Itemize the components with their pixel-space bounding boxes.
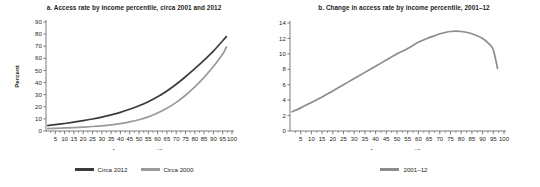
svg-text:4: 4 (282, 97, 286, 103)
svg-text:100: 100 (227, 136, 238, 142)
svg-text:20: 20 (80, 136, 87, 142)
panel-b-x-tick-labels: 5101520253035404550556065707580859095100 (299, 136, 510, 142)
svg-text:90: 90 (210, 136, 217, 142)
svg-text:45: 45 (126, 136, 133, 142)
panel-b: b. Change in access rate by income perce… (268, 0, 540, 187)
svg-text:30: 30 (98, 136, 105, 142)
panel-b-data-lines (292, 31, 497, 112)
panel-b-svg: 02468101214 5101520253035404550556065707… (268, 0, 540, 150)
panel-b-y-tick-labels: 02468101214 (279, 20, 286, 134)
svg-text:60: 60 (154, 136, 161, 142)
panel-a: a. Access rate by income percentile, cir… (0, 0, 268, 187)
svg-text:30: 30 (351, 136, 358, 142)
panel-b-axis-lines (290, 21, 506, 131)
svg-text:50: 50 (394, 136, 401, 142)
svg-text:55: 55 (404, 136, 411, 142)
svg-text:15: 15 (319, 136, 326, 142)
legend-label-circa-2000: Circa 2000 (164, 166, 194, 173)
svg-text:45: 45 (383, 136, 390, 142)
panel-a-legend: Circa 2012 Circa 2000 (0, 166, 268, 173)
svg-text:55: 55 (145, 136, 152, 142)
panel-a-x-tick-labels: 5101520253035404550556065707580859095100 (54, 136, 238, 142)
svg-text:50: 50 (136, 136, 143, 142)
svg-text:75: 75 (447, 136, 454, 142)
svg-text:90: 90 (35, 19, 42, 25)
legend-label-2001-12: 2001–12 (403, 166, 427, 173)
legend-item-circa-2012[interactable]: Circa 2012 (75, 166, 128, 173)
svg-text:20: 20 (35, 104, 42, 110)
panel-a-plot: 0102030405060708090 51015202530354045505… (0, 0, 268, 150)
svg-text:14: 14 (279, 20, 286, 26)
svg-text:10: 10 (308, 136, 315, 142)
panel-a-x-axis-title: Income percentile (113, 147, 166, 150)
svg-text:70: 70 (436, 136, 443, 142)
svg-text:60: 60 (35, 55, 42, 61)
svg-text:90: 90 (479, 136, 486, 142)
svg-text:25: 25 (89, 136, 96, 142)
svg-text:0: 0 (282, 128, 286, 134)
svg-text:80: 80 (35, 31, 42, 37)
svg-text:60: 60 (415, 136, 422, 142)
legend-line-icon (75, 168, 94, 170)
svg-text:40: 40 (117, 136, 124, 142)
svg-text:10: 10 (279, 51, 286, 57)
svg-text:0: 0 (38, 128, 42, 134)
svg-text:85: 85 (469, 136, 476, 142)
svg-text:10: 10 (61, 136, 68, 142)
svg-text:80: 80 (191, 136, 198, 142)
panel-b-x-axis-title: Income percentile (371, 147, 424, 150)
legend-line-icon (141, 168, 160, 170)
svg-text:5: 5 (54, 136, 58, 142)
legend-label-circa-2012: Circa 2012 (98, 166, 128, 173)
legend-item-circa-2000[interactable]: Circa 2000 (141, 166, 194, 173)
svg-text:95: 95 (219, 136, 226, 142)
svg-text:50: 50 (35, 68, 42, 74)
svg-text:12: 12 (279, 36, 286, 42)
svg-text:6: 6 (282, 82, 286, 88)
svg-text:20: 20 (329, 136, 336, 142)
svg-text:70: 70 (35, 43, 42, 49)
svg-text:15: 15 (71, 136, 78, 142)
svg-text:2: 2 (282, 113, 286, 119)
svg-text:65: 65 (426, 136, 433, 142)
svg-text:5: 5 (299, 136, 303, 142)
panel-b-plot: 02468101214 5101520253035404550556065707… (268, 0, 540, 150)
svg-text:25: 25 (340, 136, 347, 142)
legend-item-2001-12[interactable]: 2001–12 (380, 166, 427, 173)
svg-text:75: 75 (182, 136, 189, 142)
svg-text:35: 35 (362, 136, 369, 142)
legend-line-icon (380, 168, 399, 170)
figure-root: a. Access rate by income percentile, cir… (0, 0, 540, 187)
svg-text:70: 70 (173, 136, 180, 142)
panel-a-y-axis-title: Percent (13, 65, 20, 88)
panel-b-tick-marks (287, 23, 504, 134)
svg-text:8: 8 (282, 66, 286, 72)
svg-text:85: 85 (201, 136, 208, 142)
svg-text:30: 30 (35, 92, 42, 98)
svg-text:95: 95 (490, 136, 497, 142)
panel-a-svg: 0102030405060708090 51015202530354045505… (0, 0, 268, 150)
panel-a-y-tick-labels: 0102030405060708090 (35, 19, 42, 134)
svg-text:40: 40 (372, 136, 379, 142)
panel-b-legend: 2001–12 (268, 166, 540, 173)
panel-a-data-lines (48, 37, 227, 129)
svg-text:100: 100 (499, 136, 510, 142)
svg-text:65: 65 (164, 136, 171, 142)
svg-text:10: 10 (35, 116, 42, 122)
svg-text:40: 40 (35, 80, 42, 86)
svg-text:35: 35 (108, 136, 115, 142)
svg-text:80: 80 (458, 136, 465, 142)
